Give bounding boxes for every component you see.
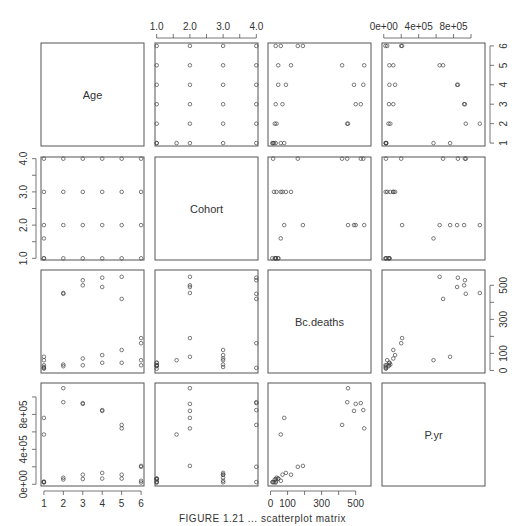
tick-label: 3.0 <box>18 185 29 199</box>
axis-bottom-bc-deaths: 0100300500 <box>268 491 365 509</box>
data-point <box>441 64 445 68</box>
tick-label: 1 <box>41 498 47 509</box>
data-point <box>188 409 192 413</box>
panel-bc-deaths-vs-bc-deaths: Bc.deaths <box>268 270 371 373</box>
data-point <box>354 102 358 106</box>
axis-left-p-yr: 0e+004e+058e+05 <box>18 397 36 498</box>
data-point <box>478 223 482 227</box>
data-point <box>448 355 452 359</box>
data-point <box>279 237 283 241</box>
data-point <box>392 64 396 68</box>
tick-label: 5 <box>119 498 125 509</box>
data-point <box>279 479 283 483</box>
panel-age-vs-cohort <box>155 43 258 146</box>
data-point <box>362 64 366 68</box>
data-point <box>120 297 124 301</box>
panel-cohort-vs-cohort: Cohort <box>155 157 258 260</box>
data-point <box>275 190 279 194</box>
data-point <box>354 402 358 406</box>
data-point <box>464 292 468 296</box>
data-point <box>400 336 404 340</box>
data-point <box>81 473 85 477</box>
data-point <box>281 102 285 106</box>
panel-bc-deaths-vs-p-yr <box>382 270 485 373</box>
tick-label: 2.0 <box>18 218 29 232</box>
data-point <box>188 64 192 68</box>
variable-label: Bc.deaths <box>295 316 344 328</box>
data-point <box>221 83 225 87</box>
data-point <box>139 341 143 345</box>
tick-label: 2 <box>61 498 67 509</box>
data-point <box>274 44 278 48</box>
data-point <box>62 223 66 227</box>
data-point <box>62 400 66 404</box>
tick-label: 2.0 <box>183 21 197 32</box>
data-point <box>188 83 192 87</box>
data-point <box>120 190 124 194</box>
data-point <box>346 386 350 390</box>
data-point <box>221 64 225 68</box>
data-point <box>139 358 143 362</box>
panel-age-vs-bc-deaths <box>268 43 371 146</box>
data-point <box>393 83 397 87</box>
data-point <box>100 190 104 194</box>
data-point <box>359 102 363 106</box>
data-point <box>81 477 85 481</box>
tick-label: 0 <box>268 498 274 509</box>
data-point <box>188 122 192 126</box>
panel-bc-deaths-vs-age <box>41 270 144 373</box>
data-point <box>393 353 397 357</box>
data-point <box>462 223 466 227</box>
data-point <box>274 102 278 106</box>
panel-age-vs-age: Age <box>41 43 144 146</box>
data-point <box>392 348 396 352</box>
data-point <box>120 223 124 227</box>
data-point <box>188 464 192 468</box>
variable-label: P.yr <box>424 429 442 441</box>
data-point <box>289 64 293 68</box>
data-point <box>432 237 436 241</box>
data-point <box>301 223 305 227</box>
data-point <box>188 427 192 431</box>
data-point <box>281 473 285 477</box>
data-point <box>221 122 225 126</box>
tick-label: 4 <box>498 82 509 88</box>
data-point <box>399 341 403 345</box>
data-point <box>81 357 85 361</box>
data-point <box>438 223 442 227</box>
data-point <box>284 471 288 475</box>
data-point <box>340 423 344 427</box>
panel-cohort-vs-p-yr <box>382 157 485 260</box>
data-point <box>81 278 85 282</box>
data-point <box>188 141 192 145</box>
tick-label: 500 <box>498 277 509 294</box>
data-point <box>81 284 85 288</box>
tick-label: 1.0 <box>150 21 164 32</box>
tick-label: 3 <box>498 101 509 107</box>
data-point <box>388 64 392 68</box>
data-point <box>441 297 445 301</box>
data-point <box>432 141 436 145</box>
data-point <box>400 223 404 227</box>
data-point <box>100 276 104 280</box>
data-point <box>100 353 104 357</box>
panel-p-yr-vs-cohort <box>155 383 258 486</box>
data-point <box>175 141 179 145</box>
data-point <box>432 358 436 362</box>
data-point <box>42 223 46 227</box>
scatterplot-matrix: AgeCohortBc.deathsP.yr1.02.03.04.00e+004… <box>0 0 525 526</box>
data-point <box>120 348 124 352</box>
tick-label: 6 <box>138 498 144 509</box>
data-point <box>42 237 46 241</box>
data-point <box>284 83 288 87</box>
tick-label: 100 <box>498 345 509 362</box>
data-point <box>289 190 293 194</box>
data-point <box>289 473 293 477</box>
tick-label: 1.0 <box>18 251 29 265</box>
data-point <box>100 285 104 289</box>
panel-cohort-vs-age <box>41 157 144 260</box>
data-point <box>100 361 104 365</box>
data-point <box>175 358 179 362</box>
panel-p-yr-vs-p-yr: P.yr <box>382 383 485 486</box>
data-point <box>221 141 225 145</box>
